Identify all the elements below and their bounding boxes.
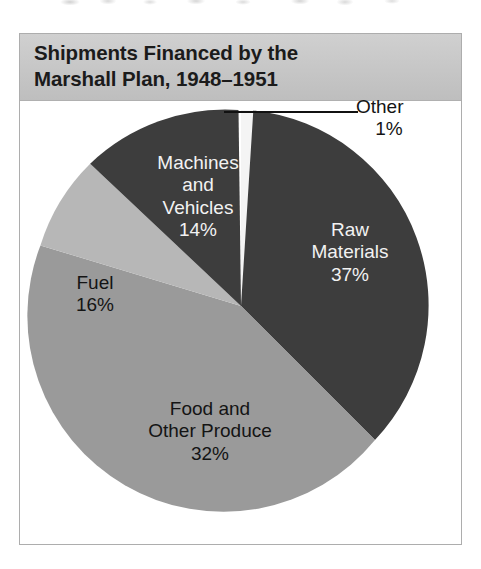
pie-chart-plot-area: Machines and Vehicles 14% Raw Materials … [20,101,461,544]
pie-leader-line-other [224,111,358,113]
pie-label-other-text: Other [356,96,404,117]
pie-slices [27,110,428,512]
chart-title-bar: Shipments Financed by the Marshall Plan,… [20,34,461,101]
chart-figure-frame: Shipments Financed by the Marshall Plan,… [19,33,462,545]
pie-label-other: Other 1% [356,96,460,140]
pie-label-other-value: 1% [356,118,422,140]
pie-chart-svg [20,101,463,544]
chart-title: Shipments Financed by the Marshall Plan,… [34,40,453,92]
scan-edge-artifact [0,0,481,22]
